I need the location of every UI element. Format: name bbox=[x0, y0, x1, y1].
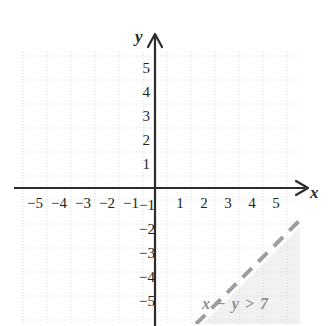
x-tick-label: 1 bbox=[176, 196, 184, 211]
x-tick-label: 5 bbox=[272, 196, 280, 211]
x-tick-label: −3 bbox=[75, 196, 91, 211]
x-axis bbox=[14, 181, 308, 195]
y-axis-label: y bbox=[135, 28, 143, 45]
y-tick-label: −4 bbox=[139, 270, 155, 285]
x-tick-label: 2 bbox=[200, 196, 208, 211]
x-tick-label: −5 bbox=[27, 196, 43, 211]
y-tick-label: 1 bbox=[143, 157, 151, 172]
coordinate-plane-svg bbox=[0, 0, 331, 326]
x-tick-label: 3 bbox=[224, 196, 232, 211]
y-tick-label: −3 bbox=[139, 246, 155, 261]
y-tick-label: 2 bbox=[143, 133, 151, 148]
y-tick-label: 4 bbox=[143, 85, 151, 100]
y-tick-label: 3 bbox=[143, 109, 151, 124]
y-tick-label: −2 bbox=[139, 222, 155, 237]
x-tick-label: −1 bbox=[123, 196, 139, 211]
x-tick-label: −2 bbox=[99, 196, 115, 211]
x-axis-label: x bbox=[310, 184, 319, 201]
x-tick-label: −4 bbox=[51, 196, 67, 211]
inequality-graph-figure: y x −5 −4 −3 −2 −1 1 2 3 4 5 5 4 3 2 1 −… bbox=[0, 0, 331, 326]
y-tick-label: 5 bbox=[143, 61, 151, 76]
x-tick-label: 4 bbox=[248, 196, 256, 211]
y-tick-label: −1 bbox=[139, 198, 155, 213]
y-tick-label: −5 bbox=[139, 294, 155, 309]
inequality-annotation: x − y > 7 bbox=[202, 296, 269, 312]
